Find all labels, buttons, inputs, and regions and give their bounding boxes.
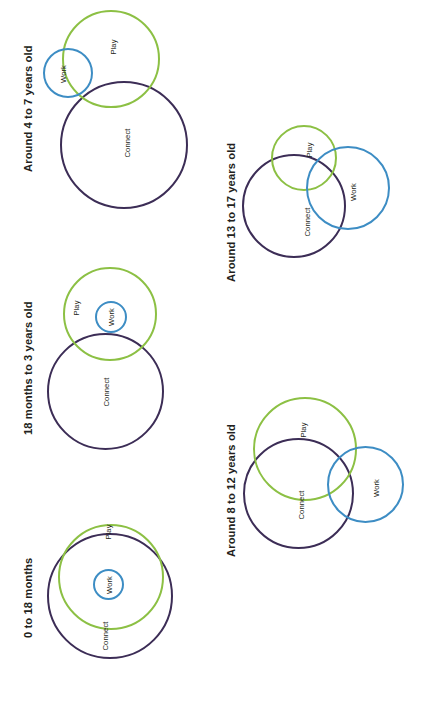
panel-0-18-months: 0 to 18 months Play Work Connect bbox=[0, 470, 210, 711]
venn-diagram-8-to-12-years: Play Work Connect bbox=[205, 375, 425, 655]
label-play: Play bbox=[72, 300, 81, 315]
label-play: Play bbox=[104, 524, 113, 539]
venn-diagram-0-18-months: Play Work Connect bbox=[0, 470, 210, 711]
venn-diagram-13-to-17-years: Play Work Connect bbox=[205, 100, 425, 370]
infographic-canvas: Around 4 to 7 years old Play Work Connec… bbox=[0, 0, 425, 711]
label-work: Work bbox=[372, 479, 381, 497]
label-connect: Connect bbox=[303, 208, 312, 237]
panel-8-to-12-years: Around 8 to 12 years old Play Work Conne… bbox=[205, 375, 425, 655]
label-connect: Connect bbox=[102, 378, 111, 407]
label-play: Play bbox=[305, 142, 314, 157]
venn-diagram-18-months-to-3-years: Play Work Connect bbox=[0, 240, 210, 465]
label-work: Work bbox=[59, 65, 68, 83]
panel-13-to-17-years: Around 13 to 17 years old Play Work Conn… bbox=[205, 100, 425, 370]
circle-work bbox=[327, 446, 404, 523]
label-work: Work bbox=[107, 308, 116, 326]
label-play: Play bbox=[109, 39, 118, 54]
label-connect: Connect bbox=[101, 622, 110, 651]
label-work: Work bbox=[349, 183, 358, 201]
circle-work bbox=[43, 48, 93, 98]
label-connect: Connect bbox=[297, 491, 306, 520]
label-work: Work bbox=[105, 576, 114, 594]
label-play: Play bbox=[299, 422, 308, 437]
label-connect: Connect bbox=[123, 129, 132, 158]
venn-diagram-4-to-7-years: Play Work Connect bbox=[0, 0, 210, 235]
panel-18-months-to-3-years: 18 months to 3 years old Play Work Conne… bbox=[0, 240, 210, 465]
panel-4-to-7-years: Around 4 to 7 years old Play Work Connec… bbox=[0, 0, 210, 235]
